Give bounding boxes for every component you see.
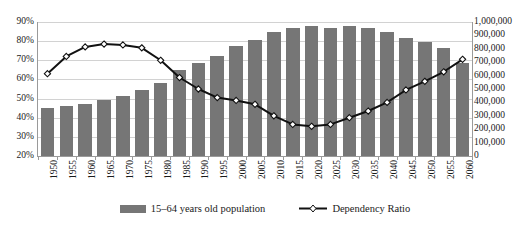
x-axis-label: 1980 [164, 160, 174, 179]
x-axis-label: 2025 [333, 160, 343, 179]
right-axis-tick-label: 800,000 [474, 44, 505, 54]
line-path [47, 44, 462, 126]
x-axis-label: 1950 [50, 160, 60, 179]
x-axis-label: 2040 [390, 160, 400, 179]
line-marker [309, 123, 315, 129]
line-diamond-swatch-icon [299, 204, 327, 213]
legend-item-dependency-ratio: Dependency Ratio [299, 203, 410, 214]
right-axis-tick-label: 400,000 [474, 98, 505, 108]
chart-legend: 15–64 years old population Dependency Ra… [0, 203, 530, 214]
dependency-ratio-line [38, 22, 472, 156]
right-axis-tick-label: 900,000 [474, 31, 505, 41]
x-axis-label: 1995 [220, 160, 230, 179]
x-axis-label: 1990 [201, 160, 211, 179]
chart-container: 20%30%40%50%60%70%80%90% 0100,000200,000… [0, 0, 530, 230]
plot-area [37, 22, 473, 157]
line-marker [101, 41, 107, 47]
x-axis-label: 2050 [428, 160, 438, 179]
left-axis-tick-label: 50% [17, 94, 34, 104]
line-marker [327, 121, 333, 127]
x-axis-label: 1955 [69, 160, 79, 179]
x-axis-label: 1965 [107, 160, 117, 179]
x-axis-label: 1985 [183, 160, 193, 179]
right-axis-labels: 0100,000200,000300,000400,000500,000600,… [474, 0, 530, 230]
right-axis-tick-label: 300,000 [474, 111, 505, 121]
line-marker [365, 108, 371, 114]
left-axis-labels: 20%30%40%50%60%70%80%90% [0, 0, 34, 230]
left-axis-tick-label: 90% [17, 17, 34, 27]
x-axis-label: 2005 [258, 160, 268, 179]
line-marker [233, 97, 239, 103]
bar-swatch-icon [120, 205, 146, 213]
line-marker [346, 115, 352, 121]
line-series [38, 22, 472, 156]
x-axis-label: 2060 [466, 160, 476, 179]
line-marker [214, 95, 220, 101]
legend-item-population: 15–64 years old population [120, 203, 266, 214]
legend-label-dependency-ratio: Dependency Ratio [332, 203, 410, 214]
x-axis-label: 2045 [409, 160, 419, 179]
left-axis-tick-label: 40% [17, 113, 34, 123]
right-axis-tick-label: 100,000 [474, 138, 505, 148]
left-axis-tick-label: 20% [17, 151, 34, 161]
left-axis-tick-label: 70% [17, 56, 34, 66]
x-axis-label: 1970 [126, 160, 136, 179]
x-axis-labels: 1950195519601965197019751980198519901995… [37, 160, 471, 200]
right-axis-tick-label: 200,000 [474, 124, 505, 134]
x-axis-label: 2055 [447, 160, 457, 179]
x-axis-label: 2035 [371, 160, 381, 179]
left-axis-tick-label: 60% [17, 75, 34, 85]
right-axis-tick-label: 500,000 [474, 84, 505, 94]
legend-label-population: 15–64 years old population [151, 203, 266, 214]
line-marker [120, 42, 126, 48]
x-axis-label: 2000 [239, 160, 249, 179]
x-axis-label: 2020 [315, 160, 325, 179]
left-axis-tick-label: 80% [17, 36, 34, 46]
left-axis-tick-label: 30% [17, 132, 34, 142]
x-axis-label: 1960 [88, 160, 98, 179]
right-axis-tick-label: 600,000 [474, 71, 505, 81]
line-marker [290, 121, 296, 127]
x-axis-label: 2010 [277, 160, 287, 179]
x-axis-label: 1975 [145, 160, 155, 179]
x-axis-label: 2030 [352, 160, 362, 179]
right-axis-tick-label: 1,000,000 [474, 17, 512, 27]
x-axis-label: 2015 [296, 160, 306, 179]
right-axis-tick-label: 700,000 [474, 57, 505, 67]
